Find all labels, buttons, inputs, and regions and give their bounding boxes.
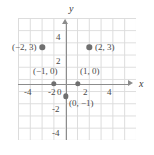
y-tick-label-4: 4 — [56, 33, 61, 42]
y-tick-label--2: -2 — [52, 105, 60, 114]
x-axis-arrow-icon — [128, 80, 133, 86]
x-tick-label--2: -2 — [48, 88, 56, 97]
grid-lines — [18, 18, 136, 140]
x-axis-label: x — [139, 79, 143, 89]
x-tick-label--4: -4 — [24, 88, 32, 97]
point-label--1-0: (−1, 0) — [33, 67, 58, 76]
y-tick-label-2: 2 — [56, 57, 61, 66]
point-label-0--1: (0, −1) — [69, 99, 94, 108]
point-label-2-3: (2, 3) — [95, 43, 115, 52]
y-tick-label--4: -4 — [52, 129, 60, 138]
point-label--2-3: (−2, 3) — [12, 43, 37, 52]
point-label-1-0: (1, 0) — [80, 67, 100, 76]
x-tick-label-2: 2 — [83, 88, 88, 97]
y-axis-arrow-icon — [62, 19, 68, 24]
origin-label: 0 — [57, 88, 62, 97]
x-tick-label-4: 4 — [107, 88, 112, 97]
coordinate-plane-figure: x y -4 -2 0 2 4 4 2 -2 -4 (−2, 3) (2, 3)… — [0, 0, 154, 155]
y-axis-label: y — [69, 4, 73, 14]
y-axis-line — [66, 24, 67, 140]
